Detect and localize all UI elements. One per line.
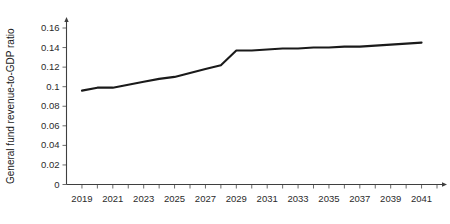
y-tick-label: 0.14 [41, 42, 60, 53]
y-tick-label: 0 [54, 179, 59, 190]
y-tick-label: 0.1 [46, 81, 59, 92]
x-tick-label: 2019 [71, 193, 92, 204]
x-tick-label: 2039 [380, 193, 401, 204]
x-tick-label: 2035 [318, 193, 339, 204]
x-tick-label: 2033 [287, 193, 308, 204]
y-tick-label: 0.04 [41, 139, 60, 150]
x-tick-label: 2031 [257, 193, 278, 204]
x-tick-label: 2027 [195, 193, 216, 204]
x-tick-label: 2021 [102, 193, 123, 204]
x-tick-label: 2037 [349, 193, 370, 204]
x-tick-label: 2023 [133, 193, 154, 204]
x-tick-label: 2029 [226, 193, 247, 204]
x-tick-label: 2041 [411, 193, 432, 204]
x-tick-label: 2025 [164, 193, 185, 204]
y-tick-label: 0.06 [41, 120, 60, 131]
y-axis-title: General fund revenue-to-GDP ratio [5, 28, 16, 184]
y-axis-title-label: General fund revenue-to-GDP ratio [5, 28, 16, 184]
y-tick-label: 0.16 [41, 22, 60, 33]
chart-container: General fund revenue-to-GDP ratio 00.020… [0, 0, 450, 224]
chart-background [0, 0, 450, 224]
line-chart: General fund revenue-to-GDP ratio 00.020… [0, 0, 450, 224]
y-tick-label: 0.02 [41, 159, 60, 170]
y-tick-label: 0.12 [41, 61, 60, 72]
y-tick-label: 0.08 [41, 100, 60, 111]
